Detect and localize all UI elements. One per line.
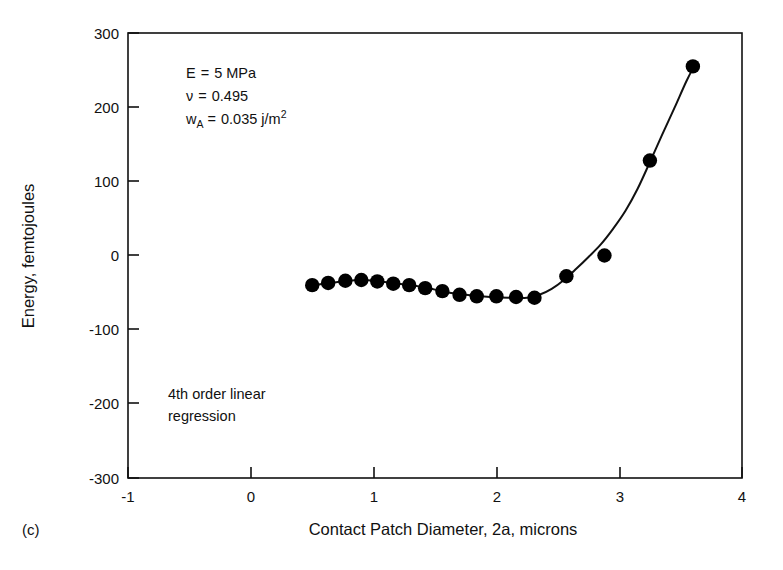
x-tick-label: 3 bbox=[616, 488, 624, 505]
y-tick-label: 0 bbox=[111, 247, 119, 264]
data-point bbox=[527, 291, 541, 305]
data-point bbox=[559, 269, 573, 283]
data-point bbox=[418, 281, 432, 295]
data-point bbox=[686, 59, 700, 73]
x-tick-label: 4 bbox=[738, 488, 746, 505]
figure-panel-c: 300 200 100 0 -100 -200 -300 -1 0 1 2 3 … bbox=[0, 0, 783, 570]
x-tick-labels: -1 0 1 2 3 4 bbox=[121, 488, 746, 505]
data-point bbox=[509, 290, 523, 304]
data-point bbox=[643, 153, 657, 167]
panel-label: (c) bbox=[22, 521, 40, 538]
data-point bbox=[386, 276, 400, 290]
data-point bbox=[402, 278, 416, 292]
x-axis-title: Contact Patch Diameter, 2a, microns bbox=[309, 520, 578, 538]
data-point bbox=[452, 288, 466, 302]
x-tick-label: 2 bbox=[493, 488, 501, 505]
data-point bbox=[370, 274, 384, 288]
chart-svg: 300 200 100 0 -100 -200 -300 -1 0 1 2 3 … bbox=[0, 0, 783, 570]
data-point bbox=[435, 284, 449, 298]
y-tick-label: -300 bbox=[89, 470, 119, 487]
y-tick-label: 200 bbox=[94, 99, 119, 116]
data-point bbox=[470, 289, 484, 303]
y-tick-labels: 300 200 100 0 -100 -200 -300 bbox=[89, 25, 119, 487]
x-tick-label: 0 bbox=[247, 488, 255, 505]
y-tick-label: -200 bbox=[89, 395, 119, 412]
data-point bbox=[321, 276, 335, 290]
y-axis-title: Energy, femtojoules bbox=[19, 184, 37, 329]
data-point bbox=[354, 273, 368, 287]
regression-note-line-2: regression bbox=[168, 408, 236, 424]
y-tick-label: 300 bbox=[94, 25, 119, 42]
x-tick-label: 1 bbox=[370, 488, 378, 505]
x-tick-label: -1 bbox=[121, 488, 134, 505]
regression-note-line-1: 4th order linear bbox=[168, 386, 266, 402]
y-tick-label: 100 bbox=[94, 173, 119, 190]
data-point bbox=[489, 289, 503, 303]
data-point bbox=[338, 274, 352, 288]
y-tick-label: -100 bbox=[89, 321, 119, 338]
data-point bbox=[597, 248, 611, 262]
data-point bbox=[305, 278, 319, 292]
